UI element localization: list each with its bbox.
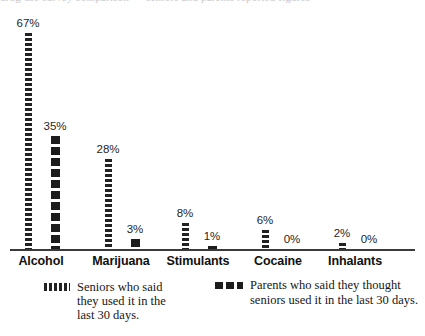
- value-label-parents-marijuana: 3%: [127, 224, 144, 236]
- bar-seniors-marijuana: [105, 159, 112, 249]
- value-label-parents-alcohol: 35%: [43, 121, 66, 133]
- value-label-parents-cocaine: 0%: [284, 234, 301, 246]
- bar-seniors-cocaine: [262, 230, 269, 249]
- category-label-stimulants: Stimulants: [167, 254, 230, 268]
- value-label-seniors-inhalants: 2%: [334, 228, 351, 240]
- legend-entry-parents: Parents who said they thought seniors us…: [215, 278, 418, 307]
- legend-entry-seniors: Seniors who said they used it in the las…: [44, 280, 166, 322]
- value-label-seniors-stimulants: 8%: [177, 208, 194, 220]
- value-label-seniors-cocaine: 6%: [257, 215, 274, 227]
- category-label-marijuana: Marijuana: [92, 254, 149, 268]
- bar-chart: drug use survey comparison — seniors and…: [0, 0, 425, 336]
- category-label-inhalants: Inhalants: [328, 254, 382, 268]
- value-label-parents-stimulants: 1%: [204, 231, 221, 243]
- x-axis-line: [10, 249, 415, 251]
- chunky-dashed-swatch-icon: [215, 282, 243, 289]
- fine-dashed-swatch-icon: [44, 283, 70, 291]
- value-label-parents-inhalants: 0%: [361, 234, 378, 246]
- bar-parents-marijuana: [131, 239, 140, 249]
- legend-label-seniors: Seniors who said they used it in the las…: [77, 280, 166, 322]
- bar-seniors-alcohol: [25, 33, 32, 249]
- bar-seniors-inhalants: [339, 243, 346, 249]
- bar-parents-stimulants: [208, 246, 217, 249]
- legend-label-parents: Parents who said they thought seniors us…: [250, 278, 418, 307]
- bar-seniors-stimulants: [182, 223, 189, 249]
- category-label-alcohol: Alcohol: [18, 254, 63, 268]
- chart-legend: Seniors who said they used it in the las…: [0, 277, 425, 336]
- bar-parents-alcohol: [51, 136, 60, 249]
- value-label-seniors-alcohol: 67%: [16, 18, 39, 30]
- plot-area: 67%35%28%3%8%1%6%0%2%0% AlcoholMarijuana…: [0, 0, 425, 251]
- value-label-seniors-marijuana: 28%: [96, 144, 119, 156]
- category-label-cocaine: Cocaine: [254, 254, 302, 268]
